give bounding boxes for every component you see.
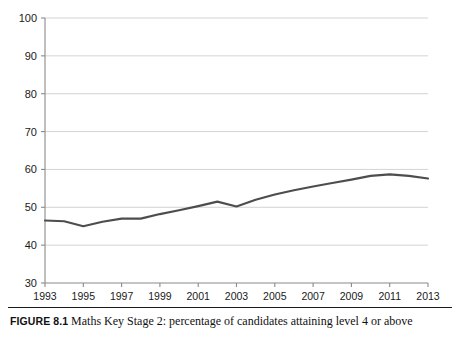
y-tick-label: 50 [25, 201, 37, 213]
y-tick-label: 70 [25, 126, 37, 138]
figure-caption: FIGURE 8.1 Maths Key Stage 2: percentage… [10, 313, 454, 329]
x-tick-label: 2013 [416, 290, 440, 302]
figure-container: 30405060708090100 1993199519971999200120… [0, 0, 460, 338]
x-tick-label: 2007 [301, 290, 325, 302]
y-tick-label: 90 [25, 50, 37, 62]
x-tick-label: 2003 [225, 290, 249, 302]
x-tick-label: 1997 [110, 290, 134, 302]
x-tick-label: 2001 [187, 290, 211, 302]
axis-ticks [41, 18, 428, 287]
y-tick-label: 100 [19, 12, 37, 24]
x-tick-label: 2011 [378, 290, 401, 302]
x-tick-label: 1999 [148, 290, 172, 302]
x-tick-label: 1995 [72, 290, 96, 302]
y-tick-label: 30 [25, 277, 37, 289]
y-tick-label: 40 [25, 239, 37, 251]
chart-area: 30405060708090100 1993199519971999200120… [0, 0, 460, 305]
gridlines [45, 18, 428, 283]
x-tick-label: 2005 [263, 290, 287, 302]
figure-caption-text: Maths Key Stage 2: percentage of candida… [71, 314, 413, 328]
y-tick-label: 60 [25, 163, 37, 175]
x-tick-label: 1993 [33, 290, 57, 302]
x-axis-labels: 1993199519971999200120032005200720092011… [33, 290, 440, 302]
data-series-line [45, 174, 428, 226]
x-tick-label: 2009 [340, 290, 364, 302]
figure-number: FIGURE 8.1 [10, 315, 68, 327]
line-chart: 30405060708090100 1993199519971999200120… [0, 0, 460, 305]
caption-divider [8, 307, 452, 308]
y-tick-label: 80 [25, 88, 37, 100]
y-axis-labels: 30405060708090100 [19, 12, 37, 289]
